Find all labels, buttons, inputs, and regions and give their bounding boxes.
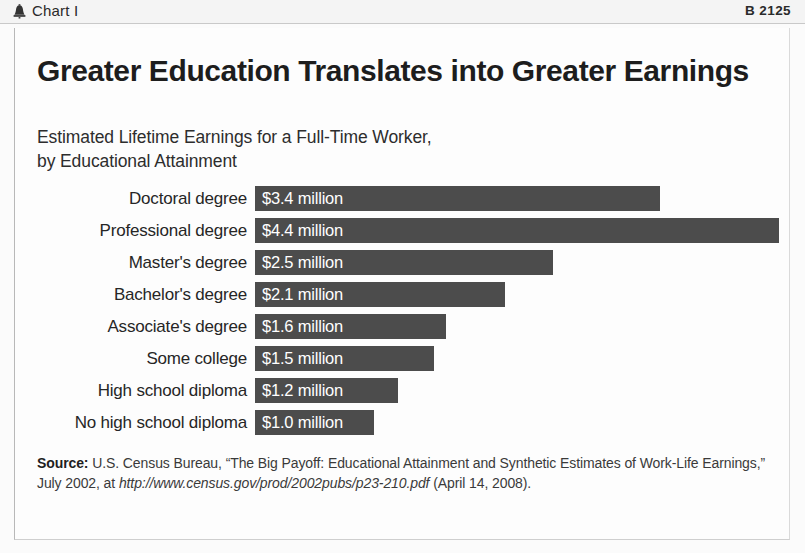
- bar-category-label: High school diploma: [15, 380, 247, 402]
- bar-category-label: Professional degree: [15, 220, 247, 242]
- bar-value-label: $1.5 million: [255, 346, 343, 371]
- bar-category-label: Bachelor's degree: [15, 284, 247, 306]
- chart-subtitle-line-2: by Educational Attainment: [37, 149, 657, 173]
- bar: $2.1 million: [255, 282, 505, 307]
- source-access-date: (April 14, 2008).: [429, 475, 531, 491]
- bar-track: $2.5 million: [255, 250, 791, 276]
- bar-row: Master's degree$2.5 million: [15, 250, 791, 282]
- bar: $1.6 million: [255, 314, 446, 339]
- bar-track: $3.4 million: [255, 186, 791, 212]
- liberty-bell-icon: [12, 3, 27, 19]
- bar-value-label: $1.6 million: [255, 314, 343, 339]
- bar-chart: Doctoral degree$3.4 millionProfessional …: [15, 186, 791, 442]
- bar: $1.0 million: [255, 410, 374, 435]
- bar-row: Bachelor's degree$2.1 million: [15, 282, 791, 314]
- bar: $1.5 million: [255, 346, 434, 371]
- bar-value-label: $1.2 million: [255, 378, 343, 403]
- bar-category-label: Some college: [15, 348, 247, 370]
- chart-page: Chart I B 2125 Greater Education Transla…: [0, 0, 805, 553]
- source-note: Source: U.S. Census Bureau, “The Big Pay…: [37, 454, 777, 493]
- bar: $2.5 million: [255, 250, 553, 275]
- bar-value-label: $2.1 million: [255, 282, 343, 307]
- bar-row: High school diploma$1.2 million: [15, 378, 791, 410]
- bar-row: Some college$1.5 million: [15, 346, 791, 378]
- bar-track: $4.4 million: [255, 218, 791, 244]
- bar: $4.4 million: [255, 218, 779, 243]
- bar-category-label: Master's degree: [15, 252, 247, 274]
- chart-subtitle-line-1: Estimated Lifetime Earnings for a Full-T…: [37, 125, 657, 149]
- bar-value-label: $1.0 million: [255, 410, 343, 435]
- chart-subtitle: Estimated Lifetime Earnings for a Full-T…: [37, 125, 657, 173]
- bar-row: Doctoral degree$3.4 million: [15, 186, 791, 218]
- bar-value-label: $4.4 million: [255, 218, 343, 243]
- page-title: Greater Education Translates into Greate…: [37, 54, 767, 88]
- header-document-code: B 2125: [745, 3, 791, 18]
- bar: $1.2 million: [255, 378, 398, 403]
- bar-track: $1.0 million: [255, 410, 791, 436]
- bar-track: $1.5 million: [255, 346, 791, 372]
- source-url[interactable]: http://www.census.gov/prod/2002pubs/p23-…: [119, 475, 430, 491]
- bar-row: No high school diploma$1.0 million: [15, 410, 791, 442]
- bar-category-label: Associate's degree: [15, 316, 247, 338]
- bar-value-label: $2.5 million: [255, 250, 343, 275]
- bar-row: Professional degree$4.4 million: [15, 218, 791, 250]
- bar-category-label: Doctoral degree: [15, 188, 247, 210]
- bar-track: $2.1 million: [255, 282, 791, 308]
- bar-row: Associate's degree$1.6 million: [15, 314, 791, 346]
- chart-card: Greater Education Translates into Greate…: [14, 28, 790, 540]
- page-header: Chart I B 2125: [0, 0, 805, 24]
- bar-track: $1.2 million: [255, 378, 791, 404]
- bar-track: $1.6 million: [255, 314, 791, 340]
- bar-category-label: No high school diploma: [15, 412, 247, 434]
- bar: $3.4 million: [255, 186, 660, 211]
- header-chart-label: Chart I: [32, 2, 78, 20]
- header-left-group: Chart I: [12, 2, 78, 20]
- bar-value-label: $3.4 million: [255, 186, 343, 211]
- source-label: Source:: [37, 455, 88, 471]
